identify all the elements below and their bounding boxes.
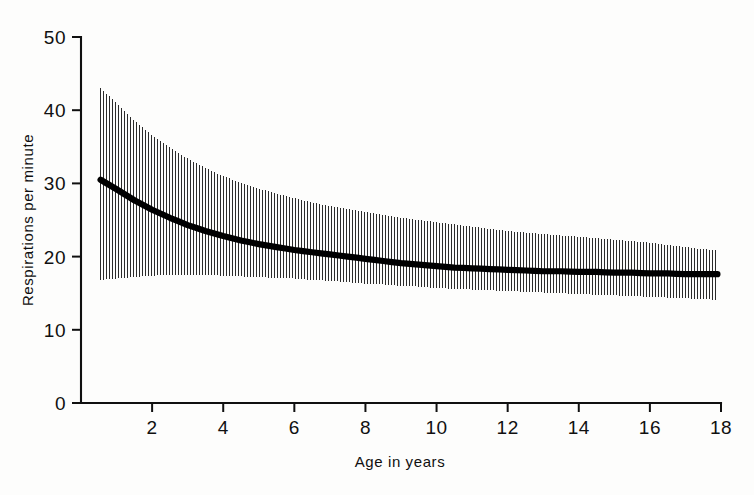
y-tick-label: 10: [44, 320, 66, 341]
x-tick-label: 8: [360, 417, 371, 438]
figure-root: 01020304050 24681012141618 Respirations …: [0, 0, 754, 495]
y-tick-label: 40: [44, 100, 66, 121]
y-tick-label: 30: [44, 173, 66, 194]
respiration-age-chart: 01020304050 24681012141618 Respirations …: [0, 0, 754, 495]
y-tick-label: 20: [44, 247, 66, 268]
x-axis-tick-labels: 24681012141618: [147, 417, 732, 438]
x-tick-label: 18: [710, 417, 732, 438]
x-tick-label: 12: [497, 417, 519, 438]
x-tick-label: 16: [639, 417, 661, 438]
y-tick-label: 0: [55, 393, 66, 414]
y-axis-ticks: [72, 37, 81, 403]
y-axis-title: Respirations per minute: [19, 134, 36, 306]
x-tick-label: 10: [425, 417, 447, 438]
x-axis-ticks: [152, 403, 721, 412]
x-axis-title: Age in years: [355, 453, 446, 470]
x-tick-label: 6: [289, 417, 300, 438]
x-tick-label: 2: [147, 417, 158, 438]
x-tick-label: 4: [218, 417, 229, 438]
x-tick-label: 14: [568, 417, 590, 438]
y-axis-tick-labels: 01020304050: [44, 27, 66, 414]
range-hatch-band: [101, 88, 716, 299]
y-tick-label: 50: [44, 27, 66, 48]
